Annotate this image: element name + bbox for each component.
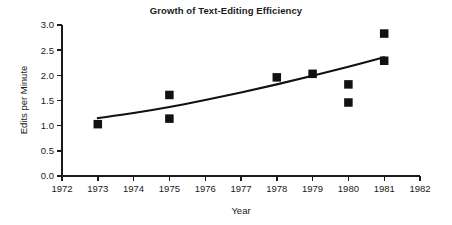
- data-point-marker: [344, 80, 353, 89]
- chart-figure: Growth of Text-Editing Efficiency 0.00.5…: [0, 0, 452, 225]
- x-tick-label: 1980: [338, 183, 359, 194]
- y-tick-label: 2.5: [41, 45, 54, 56]
- data-point-markers: [94, 29, 389, 128]
- data-point-marker: [94, 120, 103, 129]
- data-point-marker: [165, 91, 174, 100]
- x-tick-label: 1975: [159, 183, 180, 194]
- y-tick-label: 1.5: [41, 95, 54, 106]
- x-tick-label: 1974: [123, 183, 144, 194]
- trend-line: [98, 57, 384, 118]
- y-tick-label: 2.0: [41, 70, 54, 81]
- x-tick-label: 1982: [409, 183, 430, 194]
- data-point-marker: [308, 70, 317, 79]
- x-axis-tick-labels: 1972197319741975197619771978197919801981…: [51, 183, 430, 194]
- x-tick-label: 1978: [266, 183, 287, 194]
- data-point-marker: [380, 56, 389, 65]
- y-tick-label: 3.0: [41, 19, 54, 30]
- y-tick-label: 1.0: [41, 120, 54, 131]
- y-tick-label: 0.0: [41, 170, 54, 181]
- x-axis-title: Year: [231, 205, 250, 216]
- data-point-marker: [165, 114, 174, 123]
- y-axis-title: Edits per Minute: [18, 66, 29, 135]
- x-tick-label: 1973: [87, 183, 108, 194]
- y-axis-tick-labels: 0.00.51.01.52.02.53.0: [41, 19, 54, 181]
- x-tick-label: 1972: [51, 183, 72, 194]
- data-point-marker: [344, 98, 353, 107]
- x-tick-label: 1977: [230, 183, 251, 194]
- x-tick-label: 1979: [302, 183, 323, 194]
- data-point-marker: [380, 29, 389, 37]
- x-tick-label: 1981: [374, 183, 395, 194]
- y-tick-label: 0.5: [41, 145, 54, 156]
- x-tick-label: 1976: [195, 183, 216, 194]
- data-point-marker: [273, 73, 282, 82]
- scatter-plot-canvas: 0.00.51.01.52.02.53.0 197219731974197519…: [0, 0, 452, 225]
